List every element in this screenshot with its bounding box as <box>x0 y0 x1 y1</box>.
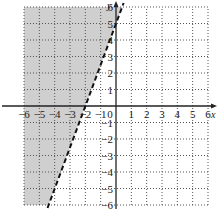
y-tick-label: −1 <box>101 117 113 129</box>
x-tick-label: 1 <box>129 108 135 120</box>
y-tick-label: 1 <box>108 84 114 96</box>
x-axis-label: x <box>210 109 216 120</box>
y-axis-label: y <box>106 0 112 11</box>
x-tick-label: 4 <box>175 108 181 120</box>
x-tick-label: 5 <box>190 108 196 120</box>
y-tick-label: 2 <box>108 67 114 79</box>
y-tick-label: −2 <box>101 133 113 145</box>
y-tick-label: 3 <box>108 51 114 63</box>
y-tick-label: 4 <box>108 34 114 46</box>
x-axis-arrow-icon <box>211 104 217 109</box>
x-tick-label: −5 <box>33 108 45 120</box>
inequality-graph: −6−5−4−3−2−10123456 −6−5−4−3−2−1123456 x… <box>0 0 219 212</box>
y-axis-arrow-icon <box>114 1 119 7</box>
y-tick-label: −5 <box>101 183 113 195</box>
x-tick-label: −3 <box>64 108 76 120</box>
x-tick-label: 2 <box>144 108 150 120</box>
x-tick-label: 3 <box>159 108 165 120</box>
x-tick-label: −6 <box>18 108 30 120</box>
y-tick-label: −3 <box>101 150 113 162</box>
x-tick-label: −2 <box>79 108 91 120</box>
y-tick-label: 5 <box>108 18 114 30</box>
y-tick-label: −4 <box>101 166 113 178</box>
y-tick-label: −6 <box>101 199 113 211</box>
x-tick-label: −4 <box>49 108 61 120</box>
